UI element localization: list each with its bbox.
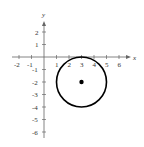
svg-text:1: 1	[55, 61, 59, 69]
svg-text:6: 6	[118, 61, 122, 69]
svg-text:-2: -2	[14, 61, 20, 69]
svg-text:5: 5	[105, 61, 109, 69]
y-axis-arrow-icon	[42, 21, 46, 26]
svg-text:-3: -3	[32, 91, 38, 99]
svg-text:2: 2	[35, 29, 39, 37]
x-tick-labels: -2 -1 1 2 3 4 5 6	[14, 61, 122, 69]
y-tick-labels: 2 1 -1 -2 -3 -4 -5 -6	[32, 29, 39, 137]
center-point	[79, 80, 83, 84]
x-axis-arrow-icon	[126, 55, 131, 59]
svg-text:-4: -4	[32, 104, 38, 112]
svg-text:1: 1	[35, 41, 39, 49]
svg-text:-1: -1	[32, 66, 38, 74]
y-axis-label: y	[41, 11, 46, 19]
svg-text:-2: -2	[32, 79, 38, 87]
svg-text:-6: -6	[32, 129, 38, 137]
coordinate-plane: x y -2 -1 1 2 3 4 5 6 2 1 -1 -2	[0, 0, 144, 147]
svg-text:2: 2	[68, 61, 72, 69]
svg-text:3: 3	[80, 61, 84, 69]
x-axis-label: x	[132, 54, 137, 62]
svg-text:-5: -5	[32, 116, 38, 124]
